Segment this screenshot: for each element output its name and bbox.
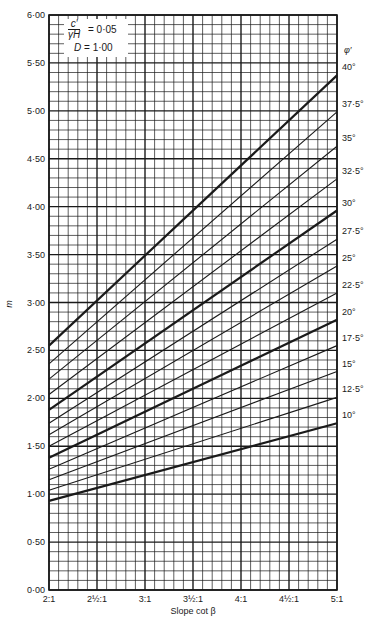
- y-tick-label: 4·00: [27, 202, 45, 212]
- phi-label: 37·5°: [342, 99, 364, 109]
- x-tick-label: 3½:1: [183, 594, 203, 604]
- ratio-value: = 0·05: [88, 24, 117, 35]
- phi-label: 27·5°: [342, 226, 364, 236]
- y-tick-label: 4·50: [27, 154, 45, 164]
- stability-chart: 0·000·501·001·502·002·503·003·504·004·50…: [0, 0, 376, 634]
- y-tick-label: 2·50: [27, 345, 45, 355]
- x-tick-label: 3:1: [139, 594, 152, 604]
- y-tick-label: 5·00: [27, 106, 45, 116]
- y-axis-label: m: [4, 300, 14, 308]
- parameter-annotation: c′ γH = 0·05 D = 1·00: [64, 19, 128, 57]
- phi-label: 32·5°: [342, 166, 364, 176]
- x-tick-label: 4½:1: [279, 594, 299, 604]
- legend-title: φ′: [344, 45, 352, 55]
- x-axis-ticks: 2:12½:13:13½:14:14½:15:1: [43, 594, 344, 604]
- grid: [49, 15, 337, 590]
- depth-label: D: [74, 42, 81, 53]
- phi-label: 17·5°: [342, 333, 364, 343]
- y-tick-label: 3·50: [27, 250, 45, 260]
- x-axis-label: Slope cot β: [170, 606, 215, 616]
- x-tick-label: 5:1: [331, 594, 344, 604]
- ratio-denominator: γH: [68, 30, 80, 40]
- phi-label: 25°: [342, 253, 356, 263]
- y-tick-label: 0·50: [27, 537, 45, 547]
- y-tick-label: 2·00: [27, 393, 45, 403]
- phi-legend: φ′40°37·5°35°32·5°30°27·5°25°22·5°20°17·…: [342, 45, 364, 420]
- cohesion-ratio: c′ γH: [68, 19, 80, 40]
- phi-label: 12·5°: [342, 384, 364, 394]
- depth-value: = 1·00: [84, 42, 113, 53]
- y-tick-label: 1·50: [27, 441, 45, 451]
- phi-label: 10°: [342, 410, 356, 420]
- y-tick-label: 6·00: [27, 10, 45, 20]
- phi-label: 35°: [342, 133, 356, 143]
- depth-factor: D = 1·00: [74, 42, 113, 53]
- y-tick-label: 1·00: [27, 489, 45, 499]
- phi-label: 30°: [342, 198, 356, 208]
- x-tick-label: 4:1: [235, 594, 248, 604]
- y-tick-label: 3·00: [27, 298, 45, 308]
- phi-label: 40°: [342, 62, 356, 72]
- phi-label: 20°: [342, 307, 356, 317]
- y-axis-ticks: 0·000·501·001·502·002·503·003·504·004·50…: [27, 10, 45, 595]
- x-tick-label: 2:1: [43, 594, 56, 604]
- phi-label: 15°: [342, 359, 356, 369]
- x-tick-label: 2½:1: [87, 594, 107, 604]
- phi-label: 22·5°: [342, 280, 364, 290]
- y-tick-label: 5·50: [27, 58, 45, 68]
